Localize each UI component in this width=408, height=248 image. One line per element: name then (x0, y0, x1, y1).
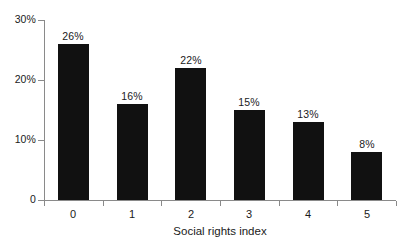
bar (293, 122, 324, 200)
bar-value-label: 8% (345, 139, 389, 150)
bar-value-label: 22% (169, 55, 213, 66)
y-axis-tick-label: 10% (15, 134, 36, 145)
bar (117, 104, 148, 200)
bar-value-label: 16% (110, 91, 154, 102)
x-axis-tick-label: 0 (53, 208, 93, 221)
x-axis-tick (220, 201, 221, 206)
x-axis-tick-label: 5 (347, 208, 387, 221)
y-axis-tick-label: 30% (15, 14, 36, 25)
y-axis-tick-label: 20% (15, 74, 36, 85)
y-axis-tick (38, 140, 44, 141)
x-axis-tick (396, 201, 397, 206)
bar (58, 44, 89, 200)
x-axis-tick-label: 4 (288, 208, 328, 221)
bar-value-label: 26% (51, 31, 95, 42)
bar (351, 152, 382, 200)
x-axis-tick-label: 1 (112, 208, 152, 221)
x-axis-tick (44, 201, 45, 206)
x-axis-tick-label: 3 (229, 208, 269, 221)
x-axis-tick (279, 201, 280, 206)
x-axis-tick-label: 2 (171, 208, 211, 221)
bar-chart: 010%20%30% 26%16%22%15%13%8% 012345 Soci… (0, 0, 408, 248)
bar-value-label: 13% (286, 109, 330, 120)
y-axis-line (44, 20, 45, 201)
bar (175, 68, 206, 200)
x-axis-title: Social rights index (44, 224, 396, 238)
bar (234, 110, 265, 200)
bar-value-label: 15% (227, 97, 271, 108)
y-axis-tick (38, 20, 44, 21)
y-axis-tick (38, 80, 44, 81)
x-axis-tick (161, 201, 162, 206)
x-axis-tick (337, 201, 338, 206)
x-axis-tick (103, 201, 104, 206)
y-axis-tick-label: 0 (30, 194, 36, 205)
